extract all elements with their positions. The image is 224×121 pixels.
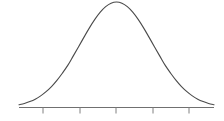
chart-canvas [0, 0, 224, 121]
bell-curve-path [19, 2, 214, 105]
x-axis-tick-group [43, 108, 189, 114]
normal-distribution-chart [0, 0, 224, 121]
